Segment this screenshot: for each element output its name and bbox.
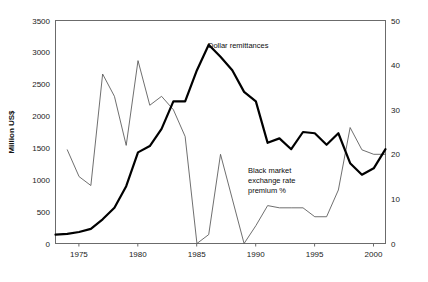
x-tick-1990: 1990 xyxy=(247,250,265,259)
y-tick-left-2500: 2500 xyxy=(32,80,50,89)
y-tick-right-10: 10 xyxy=(391,195,400,204)
x-tick-1985: 1985 xyxy=(188,250,206,259)
x-tick-1980: 1980 xyxy=(129,250,147,259)
annotation-black-market-premium: Black market exchange rate premium % xyxy=(248,166,296,195)
line-chart: 3500 3000 2500 2000 1500 1000 500 0 50 4… xyxy=(0,0,428,282)
series-line-dollar-remittances xyxy=(56,45,386,235)
x-tick-2000: 2000 xyxy=(365,250,383,259)
y-tick-left-500: 500 xyxy=(37,208,51,217)
annotation-dollar-remittances: Dollar remittances xyxy=(208,41,269,50)
y-axis-right: 50 40 30 20 10 0 xyxy=(391,17,400,249)
y-tick-right-30: 30 xyxy=(391,106,400,115)
x-tick-1995: 1995 xyxy=(306,250,324,259)
annotation-black-market-line-1: Black market xyxy=(248,166,292,175)
y-axis-left: 3500 3000 2500 2000 1500 1000 500 0 xyxy=(32,17,50,249)
y-tick-left-0: 0 xyxy=(46,240,51,249)
y-tick-left-3000: 3000 xyxy=(32,48,50,57)
y-axis-left-title: Million US$ xyxy=(7,110,16,154)
chart-figure: 3500 3000 2500 2000 1500 1000 500 0 50 4… xyxy=(0,0,428,282)
y-tick-right-50: 50 xyxy=(391,17,400,26)
annotation-black-market-line-2: exchange rate xyxy=(248,176,296,185)
y-tick-left-3500: 3500 xyxy=(32,17,50,26)
x-tick-1975: 1975 xyxy=(70,250,88,259)
y-tick-left-1500: 1500 xyxy=(32,144,50,153)
x-axis: 1975 1980 1985 1990 1995 2000 xyxy=(70,244,383,260)
y-tick-left-2000: 2000 xyxy=(32,112,50,121)
y-tick-right-0: 0 xyxy=(391,240,396,249)
annotation-black-market-line-3: premium % xyxy=(248,186,286,195)
y-tick-right-20: 20 xyxy=(391,150,400,159)
series-line-black-market-premium xyxy=(67,61,385,244)
y-tick-left-1000: 1000 xyxy=(32,176,50,185)
plot-area-frame xyxy=(56,21,386,244)
y-tick-right-40: 40 xyxy=(391,61,400,70)
